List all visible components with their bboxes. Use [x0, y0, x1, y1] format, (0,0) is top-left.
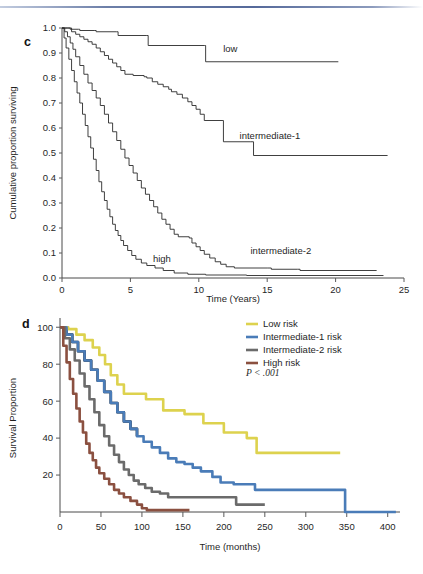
- panel-c-x-tick-label: 25: [399, 284, 410, 295]
- panel-d-pvalue: P < .001: [245, 368, 279, 378]
- panel-d-x-tick-label: 150: [175, 521, 191, 532]
- panel-d-x-ticks: 050100150200250300350400: [57, 512, 395, 532]
- panel-c-curve-annotations: lowintermediate-1intermediate-2high: [153, 43, 311, 264]
- panel-c-x-tick-label: 15: [262, 284, 273, 295]
- panel-d-x-axis-title: Time (months): [200, 541, 261, 552]
- panel-d-y-tick-label: 80: [42, 359, 53, 370]
- panel-c-label-high: high: [153, 253, 171, 264]
- panel-c-y-tick-label: 0.2: [43, 222, 56, 233]
- panel-c-y-axis-title: Cumulative proportion surviving: [7, 86, 18, 219]
- panel-d-curve-intermediate-2-risk: [60, 327, 265, 504]
- panel-c-curve-low: [62, 28, 338, 62]
- panel-d-x-tick-label: 100: [134, 521, 150, 532]
- panel-d-curves: [60, 327, 396, 512]
- legend-label-intermediate-1-risk: Intermediate-1 risk: [263, 331, 342, 342]
- panel-d-y-ticks: 20406080100: [37, 322, 60, 481]
- panel-d-x-tick-label: 400: [380, 521, 396, 532]
- panel-c-y-tick-label: 0.3: [43, 197, 56, 208]
- panel-d-survival-chart: 20406080100 050100150200250300350400 d S…: [0, 300, 423, 574]
- panel-d-x-tick-label: 250: [257, 521, 273, 532]
- legend-label-high-risk: High risk: [263, 357, 300, 368]
- panel-d-x-tick-label: 50: [96, 521, 107, 532]
- legend-label-low-risk: Low risk: [263, 318, 298, 329]
- panel-d-letter: d: [22, 317, 30, 331]
- legend-label-intermediate-2-risk: Intermediate-2 risk: [263, 344, 342, 355]
- panel-c-label-intermediate-1: intermediate-1: [240, 130, 301, 141]
- panel-c-x-tick-label: 10: [194, 284, 205, 295]
- panel-c-x-tick-label: 0: [59, 284, 64, 295]
- panel-c-survival-chart: 0.00.10.20.30.40.50.60.70.80.91.0 051015…: [0, 14, 423, 304]
- panel-c-y-tick-label: 0.6: [43, 122, 56, 133]
- panel-c-curves: [62, 28, 388, 276]
- panel-c-curve-high: [62, 28, 383, 276]
- panel-c-letter: c: [24, 35, 31, 49]
- panel-d-y-tick-label: 20: [42, 469, 53, 480]
- panel-d-x-tick-label: 200: [216, 521, 232, 532]
- panel-c-y-tick-label: 0.4: [43, 172, 56, 183]
- panel-c-y-ticks: 0.00.10.20.30.40.50.60.70.80.91.0: [43, 22, 62, 283]
- panel-c-curve-intermediate-2: [62, 28, 377, 271]
- panel-d-svg: 20406080100 050100150200250300350400 d S…: [0, 300, 423, 574]
- panel-c-y-tick-label: 0.5: [43, 147, 56, 158]
- panel-c-x-tick-label: 20: [330, 284, 341, 295]
- panel-c-y-tick-label: 0.8: [43, 72, 56, 83]
- panel-c-y-tick-label: 0.7: [43, 97, 56, 108]
- panel-c-x-tick-label: 5: [128, 284, 133, 295]
- panel-d-y-tick-label: 40: [42, 432, 53, 443]
- panel-c-y-tick-label: 0.1: [43, 247, 56, 258]
- panel-d-y-tick-label: 60: [42, 396, 53, 407]
- header-divider-rule: [0, 6, 423, 8]
- panel-c-y-tick-label: 0.9: [43, 47, 56, 58]
- panel-d-legend: Low riskIntermediate-1 riskIntermediate-…: [246, 318, 342, 368]
- panel-c-label-low: low: [223, 43, 237, 54]
- panel-d-x-tick-label: 0: [57, 521, 62, 532]
- panel-c-label-intermediate-2: intermediate-2: [251, 245, 312, 256]
- panel-d-x-tick-label: 300: [298, 521, 314, 532]
- panel-d-x-tick-label: 350: [339, 521, 355, 532]
- panel-c-svg: 0.00.10.20.30.40.50.60.70.80.91.0 051015…: [0, 14, 423, 304]
- panel-c-axes: [62, 28, 404, 278]
- panel-c-y-tick-label: 0.0: [43, 272, 56, 283]
- panel-d-y-axis-title: Survival Proportion: [7, 378, 18, 458]
- panel-d-y-tick-label: 100: [37, 322, 53, 333]
- panel-c-y-tick-label: 1.0: [43, 22, 56, 33]
